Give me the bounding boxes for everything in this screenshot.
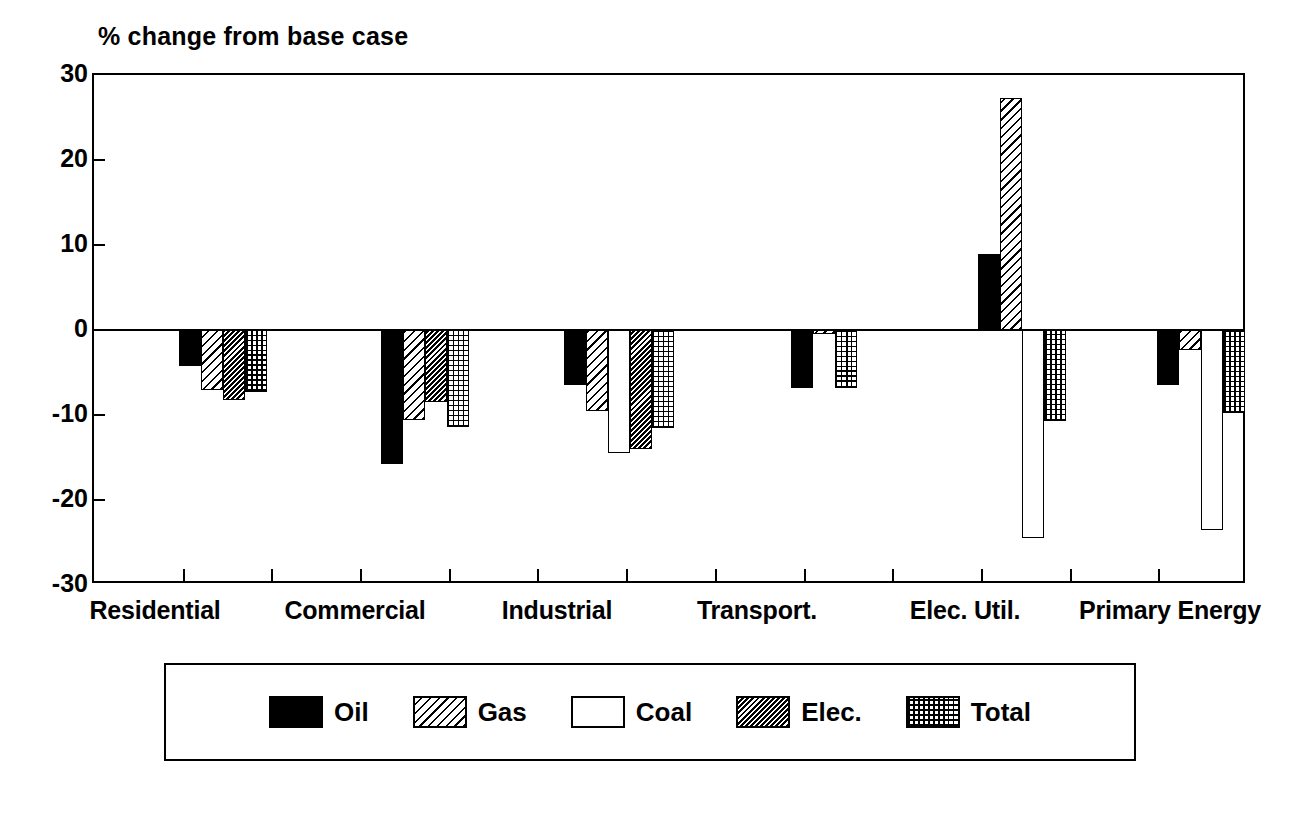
bar-primary-energy-coal — [1201, 330, 1223, 530]
y-axis-tick-label-group: 3020100-10-20-30 — [0, 0, 88, 816]
bar-elec-util-total — [1044, 330, 1066, 421]
y-axis-tick-label: 20 — [10, 144, 88, 173]
legend-item-oil[interactable]: Oil — [269, 696, 369, 728]
legend-swatch-icon — [571, 696, 625, 728]
x-axis-tick-mark — [1158, 569, 1160, 581]
legend-item-elec[interactable]: Elec. — [736, 696, 862, 728]
bar-residential-gas — [201, 330, 223, 390]
bar-transport-gas — [813, 330, 835, 334]
y-axis-tick-mark — [94, 414, 105, 416]
bar-industrial-oil — [564, 330, 586, 385]
bar-transport-total — [835, 330, 857, 388]
bar-residential-total — [245, 330, 267, 392]
bar-primary-energy-total — [1223, 330, 1245, 413]
x-axis-tick-mark — [537, 569, 539, 581]
legend-label: Coal — [636, 697, 692, 728]
x-axis-category-label: Elec. Util. — [910, 596, 1020, 625]
legend-label: Elec. — [801, 697, 862, 728]
x-axis-tick-mark — [449, 569, 451, 581]
bar-commercial-elec — [425, 330, 447, 402]
bar-primary-energy-gas — [1179, 330, 1201, 350]
x-axis-category-label: Transport. — [697, 596, 817, 625]
chart-legend: OilGasCoalElec.Total — [164, 663, 1136, 761]
x-axis-category-label: Primary Energy — [1079, 596, 1261, 625]
x-axis-tick-mark — [715, 569, 717, 581]
y-axis-tick-label: -10 — [10, 399, 88, 428]
x-axis-category-label: Industrial — [502, 596, 613, 625]
y-axis-tick-label: 30 — [10, 59, 88, 88]
legend-item-total[interactable]: Total — [906, 696, 1031, 728]
y-axis-tick-mark — [94, 244, 105, 246]
x-axis-tick-mark — [271, 569, 273, 581]
x-axis-tick-mark — [360, 569, 362, 581]
x-axis-tick-mark — [626, 569, 628, 581]
legend-label: Gas — [478, 697, 527, 728]
y-axis-tick-label: -20 — [10, 484, 88, 513]
bar-elec-util-oil — [978, 254, 1000, 331]
bar-commercial-total — [447, 330, 469, 427]
legend-label: Oil — [334, 697, 369, 728]
y-axis-tick-label: 0 — [10, 314, 88, 343]
x-axis-category-label: Residential — [89, 596, 220, 625]
x-axis-category-label-group: ResidentialCommercialIndustrialTransport… — [0, 596, 1308, 636]
y-axis-title: % change from base case — [98, 22, 408, 51]
x-axis-tick-mark — [183, 569, 185, 581]
x-axis-tick-mark — [892, 569, 894, 581]
y-axis-tick-label: -30 — [10, 569, 88, 598]
bar-commercial-oil — [381, 330, 403, 464]
bar-commercial-gas — [403, 330, 425, 420]
bar-primary-energy-oil — [1157, 330, 1179, 385]
legend-item-coal[interactable]: Coal — [571, 696, 692, 728]
legend-swatch-icon — [906, 696, 960, 728]
x-axis-category-label: Commercial — [284, 596, 425, 625]
bar-residential-oil — [179, 330, 201, 366]
bar-elec-util-coal — [1022, 330, 1044, 538]
bar-industrial-total — [652, 330, 674, 428]
x-axis-tick-mark — [981, 569, 983, 581]
bar-residential-elec — [223, 330, 245, 400]
bar-industrial-gas — [586, 330, 608, 411]
bar-elec-util-gas — [1000, 98, 1022, 330]
bar-transport-oil — [791, 330, 813, 388]
bar-industrial-elec — [630, 330, 652, 449]
legend-label: Total — [971, 697, 1031, 728]
bar-industrial-coal — [608, 330, 630, 453]
x-axis-tick-mark — [804, 569, 806, 581]
y-axis-tick-mark — [94, 499, 105, 501]
legend-swatch-icon — [269, 696, 323, 728]
legend-item-gas[interactable]: Gas — [413, 696, 527, 728]
x-axis-tick-mark — [1070, 569, 1072, 581]
legend-swatch-icon — [413, 696, 467, 728]
y-axis-tick-mark — [94, 159, 105, 161]
plot-area — [92, 73, 1245, 583]
chart-figure: % change from base case 3020100-10-20-30… — [0, 0, 1308, 816]
legend-swatch-icon — [736, 696, 790, 728]
y-axis-tick-label: 10 — [10, 229, 88, 258]
